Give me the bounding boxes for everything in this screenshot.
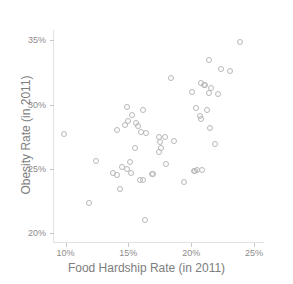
data-point: [198, 116, 204, 122]
data-point: [114, 127, 120, 133]
x-tick-mark: [128, 243, 129, 247]
data-point: [162, 134, 168, 140]
data-point: [140, 177, 146, 183]
y-axis-title: Obesity Rate (in 2011): [19, 40, 33, 230]
x-tick-label: 20%: [182, 248, 200, 258]
data-point: [142, 217, 148, 223]
x-tick-mark: [191, 243, 192, 247]
data-point: [237, 39, 243, 45]
data-point: [129, 112, 135, 118]
data-point: [61, 131, 67, 137]
data-point: [206, 90, 212, 96]
data-point: [193, 105, 199, 111]
x-axis-title: Food Hardship Rate (in 2011): [0, 261, 293, 275]
data-point: [181, 179, 187, 185]
data-point: [218, 66, 224, 72]
data-point: [132, 145, 138, 151]
data-point: [168, 75, 174, 81]
data-point: [212, 141, 218, 147]
x-tick-label: 25%: [245, 248, 263, 258]
x-tick-label: 15%: [119, 248, 137, 258]
scatter-plot-figure: 20%25%30%35% 10%15%20%25% Food Hardship …: [0, 0, 293, 284]
data-point: [143, 130, 149, 136]
data-point: [227, 68, 233, 74]
x-axis-spine: [53, 242, 264, 243]
data-point: [192, 168, 198, 174]
data-point: [171, 138, 177, 144]
data-point: [157, 139, 163, 145]
data-point: [86, 200, 92, 206]
data-point: [207, 125, 213, 131]
data-point: [150, 171, 156, 177]
data-point: [163, 161, 169, 167]
data-point: [122, 122, 128, 128]
data-point: [127, 159, 133, 165]
x-tick-label: 10%: [57, 248, 75, 258]
plot-area: [53, 30, 264, 242]
data-point: [140, 107, 146, 113]
data-point: [114, 172, 120, 178]
data-point: [117, 186, 123, 192]
data-point: [206, 57, 212, 63]
data-point: [202, 82, 208, 88]
data-point: [124, 104, 130, 110]
data-point: [199, 167, 205, 173]
x-tick-mark: [254, 243, 255, 247]
data-point: [204, 107, 210, 113]
x-tick-mark: [66, 243, 67, 247]
data-point: [215, 91, 221, 97]
data-point: [189, 89, 195, 95]
data-point: [156, 149, 162, 155]
data-point: [93, 158, 99, 164]
data-point: [128, 170, 134, 176]
